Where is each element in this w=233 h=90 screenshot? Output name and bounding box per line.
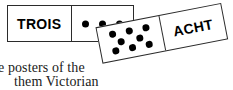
pip-dot bbox=[111, 47, 119, 55]
pip-dot bbox=[128, 43, 136, 51]
domino-acht-word-half: ACHT bbox=[158, 4, 227, 50]
pip-dot bbox=[125, 27, 133, 35]
pip-dot bbox=[108, 30, 116, 38]
pip-dot bbox=[117, 37, 125, 45]
body-text-line-2: them Victorian bbox=[14, 74, 99, 90]
pip-dot bbox=[142, 24, 150, 32]
pip-dot bbox=[82, 20, 89, 27]
pip-dot bbox=[136, 33, 144, 41]
pip-dot bbox=[145, 40, 153, 48]
domino-trois-word-half: TROIS bbox=[8, 6, 71, 41]
domino-acht-word: ACHT bbox=[172, 17, 214, 38]
domino-trois-word: TROIS bbox=[17, 17, 61, 31]
screenshot-canvas: e posters of the them Victorian TROIS bbox=[0, 0, 233, 90]
